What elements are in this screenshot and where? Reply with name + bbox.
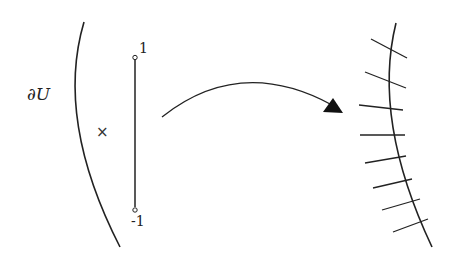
segment-bottom-endpoint [133, 208, 137, 212]
segment-top-endpoint [133, 55, 137, 59]
arrowhead-icon [323, 98, 343, 113]
segment-bottom-label: -1 [131, 213, 145, 229]
segment-top-label: 1 [139, 40, 148, 56]
point-marker: × [96, 123, 109, 141]
diagram-svg [0, 0, 457, 265]
diagram-canvas: ∂U × 1 -1 [0, 0, 457, 265]
mapping-arrow-curve [162, 83, 332, 117]
boundary-label: ∂U [27, 84, 50, 104]
transverse-ticks [359, 39, 428, 232]
